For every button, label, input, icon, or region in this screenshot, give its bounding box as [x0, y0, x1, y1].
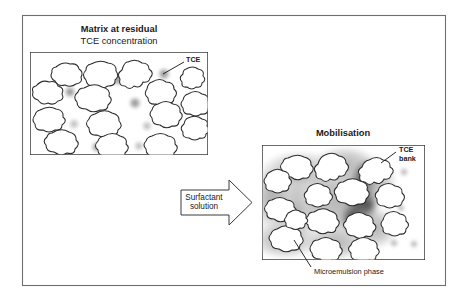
right-panel-group: Mobilisation TCE bank Microemulsion phas… — [249, 128, 425, 276]
figure-root: Matrix at residual TCE concentration TCE… — [0, 0, 470, 302]
surfactant-arrow-label-line1: Surfactant — [185, 193, 223, 202]
tce-callout-label: TCE — [186, 55, 201, 64]
surfactant-arrow-group: Surfactant solution — [181, 180, 252, 225]
left-panel-group: Matrix at residual TCE concentration TCE — [31, 24, 211, 159]
diagram-canvas: Matrix at residual TCE concentration TCE… — [0, 0, 470, 302]
tce-bank-callout-label-line1: TCE — [399, 145, 414, 154]
left-panel-title-line2: TCE concentration — [81, 36, 158, 46]
right-panel-title: Mobilisation — [316, 128, 371, 138]
surfactant-arrow-label-line2: solution — [190, 202, 219, 211]
left-panel-content — [31, 53, 211, 159]
left-panel-title-line1: Matrix at residual — [81, 24, 157, 34]
tce-bank-callout-label-line2: bank — [399, 154, 416, 163]
microemulsion-caption-label: Microemulsion phase — [314, 267, 384, 276]
